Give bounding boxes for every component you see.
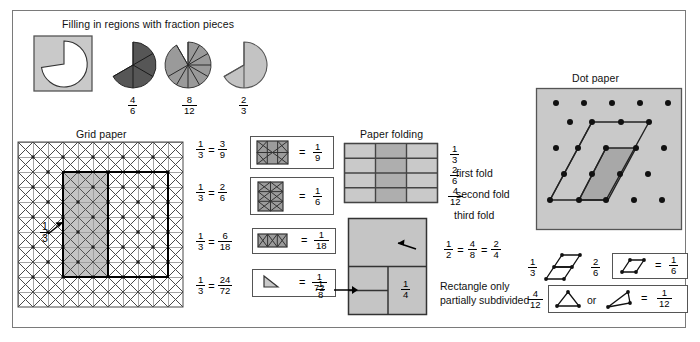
- shape-rect-18: [257, 233, 289, 249]
- quarter-label: 14: [401, 280, 410, 300]
- grid-shape-box-3: = 118: [252, 228, 336, 254]
- dot-result-1: 16: [669, 255, 678, 275]
- shape-double-parallelogram: [546, 251, 588, 283]
- grid-paper-title: Grid paper: [76, 128, 127, 140]
- grid-result-3: 118: [314, 230, 329, 250]
- fold-label-3: 412 third fold: [448, 187, 488, 225]
- shape-square-9: [256, 140, 290, 166]
- shape-triangle-slanted: [604, 289, 636, 311]
- shape-triangle-72: [262, 274, 284, 294]
- eq-sign: =: [208, 236, 214, 248]
- dot-eq-left-1: 13: [528, 258, 537, 278]
- eq-sign-dot-2: =: [641, 292, 647, 304]
- shape-single-parallelogram: [618, 257, 650, 277]
- grid-shape-box-2: = 16: [250, 177, 334, 215]
- dot-eq-left-2: 412: [528, 290, 543, 310]
- grid-result-2: 16: [313, 186, 322, 206]
- dot-paper-diagram: [536, 88, 688, 238]
- eq-sign-result-1: =: [299, 146, 305, 158]
- eq-sign: =: [208, 280, 214, 292]
- rectangle-caption-line1: Rectangle only: [440, 280, 509, 292]
- eighth-arrow-icon: [334, 284, 360, 296]
- paper-folding-title: Paper folding: [360, 128, 423, 140]
- grid-shape-box-1: = 19: [250, 136, 334, 169]
- fraction-concepts-figure: Filling in regions with fraction pieces: [0, 0, 700, 342]
- pie-label-two-thirds: 23: [239, 96, 248, 116]
- partially-subdivided-rectangle: [348, 218, 432, 318]
- pie-four-sixths: [107, 35, 163, 93]
- eq-sign-result-3: =: [301, 234, 307, 246]
- fold-text-3: third fold: [454, 209, 494, 221]
- grid-eq-row-4: 13 = 2472: [196, 276, 232, 296]
- grid-eq-row-1: 13 = 39: [196, 140, 227, 160]
- eq-sign-result-2: =: [299, 190, 305, 202]
- pie-label-eight-twelfths: 812: [182, 96, 197, 116]
- eq-sign-half-2: =: [481, 244, 487, 256]
- pie-label-four-sixths: 46: [128, 96, 137, 116]
- eq-sign-half-1: =: [457, 244, 463, 256]
- filling-title: Filling in regions with fraction pieces: [62, 18, 234, 30]
- grid-region-label: 13: [40, 222, 50, 244]
- eighth-label: 18: [316, 280, 325, 300]
- dot-paper-title: Dot paper: [572, 72, 619, 84]
- grid-eq-row-3: 13 = 618: [196, 232, 232, 252]
- eq-sign: =: [208, 187, 214, 199]
- grid-result-1: 19: [313, 142, 322, 162]
- pie-eight-twelfths: [160, 35, 218, 93]
- eq-sign: =: [208, 144, 214, 156]
- shape-rect-6: [257, 181, 287, 213]
- dot-shape-box-1: = 16: [612, 253, 688, 279]
- pie-two-thirds: [216, 35, 274, 93]
- folded-paper-grid: [344, 143, 440, 205]
- grid-eq-row-2: 13 = 26: [196, 183, 227, 203]
- square-with-partial-circle: [33, 35, 95, 93]
- rectangle-caption-line2: partially subdivided: [440, 294, 529, 306]
- half-equation: 12 = 48 = 24: [444, 240, 501, 260]
- eq-sign-result-4: =: [299, 276, 305, 288]
- dot-eq-mid-1: 26: [591, 258, 600, 278]
- shape-triangle-up: [554, 289, 584, 311]
- dot-shape-box-2: or = 112: [548, 285, 688, 313]
- eq-sign-dot-1: =: [655, 259, 661, 271]
- dot-result-2: 112: [657, 288, 672, 308]
- or-text: or: [587, 294, 596, 306]
